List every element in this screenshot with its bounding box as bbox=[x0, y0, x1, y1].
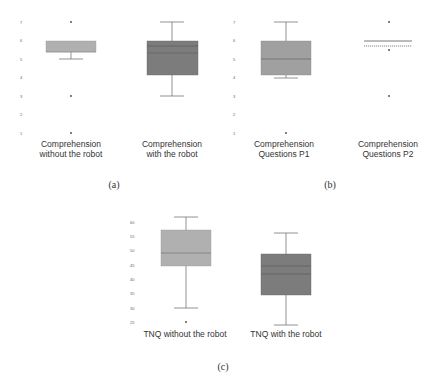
panel-label-b: (b) bbox=[324, 179, 336, 191]
panel-c: 60 55 50 45 40 35 30 25 bbox=[130, 217, 322, 373]
y-tick: 1 bbox=[233, 131, 236, 136]
y-tick: 2 bbox=[20, 112, 23, 117]
category-label: TNQ with the robot bbox=[250, 329, 322, 339]
y-axis-ticks-c: 60 55 50 45 40 35 30 25 bbox=[130, 220, 135, 325]
y-tick: 3 bbox=[20, 94, 23, 99]
category-label: Questions P2 bbox=[362, 149, 413, 159]
panel-label-c: (c) bbox=[217, 361, 228, 373]
category-label: Comprehension bbox=[142, 139, 202, 149]
outlier-point bbox=[185, 321, 187, 323]
y-tick: 1 bbox=[20, 131, 23, 136]
y-tick: 5 bbox=[233, 57, 236, 62]
boxplot-comprehension-without-robot bbox=[46, 21, 96, 134]
y-tick: 4 bbox=[233, 75, 236, 80]
category-label: with the robot bbox=[145, 149, 198, 159]
y-tick: 55 bbox=[130, 234, 135, 239]
y-tick: 2 bbox=[233, 112, 236, 117]
figure: 7 6 5 4 3 2 1 Comprehension bbox=[0, 0, 431, 385]
outlier-point bbox=[70, 95, 72, 97]
boxplot-tnq-with-robot bbox=[261, 233, 311, 325]
boxplot-comprehension-questions-p2 bbox=[364, 21, 412, 97]
outlier-point bbox=[388, 21, 390, 23]
outlier-point bbox=[388, 49, 390, 51]
boxplot-comprehension-with-robot bbox=[147, 22, 198, 96]
outlier-point bbox=[388, 95, 390, 97]
boxplot-comprehension-questions-p1 bbox=[261, 22, 311, 134]
category-label: Comprehension bbox=[254, 139, 314, 149]
panel-a: 7 6 5 4 3 2 1 Comprehension bbox=[20, 20, 202, 192]
outlier-point bbox=[70, 132, 72, 134]
panel-b: 7 6 5 4 3 2 1 Comprehension Questions bbox=[233, 20, 418, 192]
y-tick: 5 bbox=[20, 57, 23, 62]
outlier-point bbox=[285, 132, 287, 134]
y-tick: 45 bbox=[130, 263, 135, 268]
y-tick: 30 bbox=[130, 306, 135, 311]
y-axis-ticks-b: 7 6 5 4 3 2 1 bbox=[233, 20, 236, 136]
panel-label-a: (a) bbox=[108, 179, 119, 191]
y-tick: 60 bbox=[130, 220, 135, 225]
y-tick: 3 bbox=[233, 94, 236, 99]
y-tick: 6 bbox=[233, 38, 236, 43]
y-tick: 25 bbox=[130, 320, 135, 325]
category-label: Comprehension bbox=[358, 139, 418, 149]
outlier-point bbox=[70, 21, 72, 23]
category-label: TNQ without the robot bbox=[143, 329, 227, 339]
y-tick: 40 bbox=[130, 277, 135, 282]
y-axis-ticks-a: 7 6 5 4 3 2 1 bbox=[20, 20, 23, 136]
y-tick: 4 bbox=[20, 75, 23, 80]
y-tick: 7 bbox=[20, 20, 23, 25]
y-tick: 6 bbox=[20, 38, 23, 43]
boxplot-tnq-without-robot bbox=[161, 217, 211, 323]
y-tick: 7 bbox=[233, 20, 236, 25]
category-label: without the robot bbox=[39, 149, 103, 159]
category-label: Comprehension bbox=[41, 139, 101, 149]
category-label: Questions P1 bbox=[258, 149, 309, 159]
y-tick: 50 bbox=[130, 248, 135, 253]
y-tick: 35 bbox=[130, 291, 135, 296]
